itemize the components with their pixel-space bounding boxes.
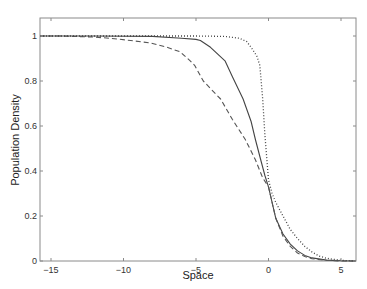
y-tick-label: 0.6	[24, 121, 37, 131]
y-tick-label: 1	[32, 31, 37, 41]
x-tick-label: −10	[116, 265, 131, 275]
x-axis-label: Space	[182, 269, 213, 281]
x-tick-label: 0	[266, 265, 271, 275]
x-tick-label: −15	[43, 265, 58, 275]
chart: −15−10−505 00.20.40.60.81 Space Populati…	[0, 0, 367, 289]
y-tick-label: 0.2	[24, 211, 37, 221]
plot-frame	[40, 18, 356, 261]
x-tick-label: 5	[338, 265, 343, 275]
y-tick-label: 0.8	[24, 76, 37, 86]
y-axis-label: Population Density	[9, 94, 21, 186]
plot-area: −15−10−505 00.20.40.60.81	[24, 18, 356, 275]
y-tick-label: 0	[32, 256, 37, 266]
y-tick-label: 0.4	[24, 166, 37, 176]
